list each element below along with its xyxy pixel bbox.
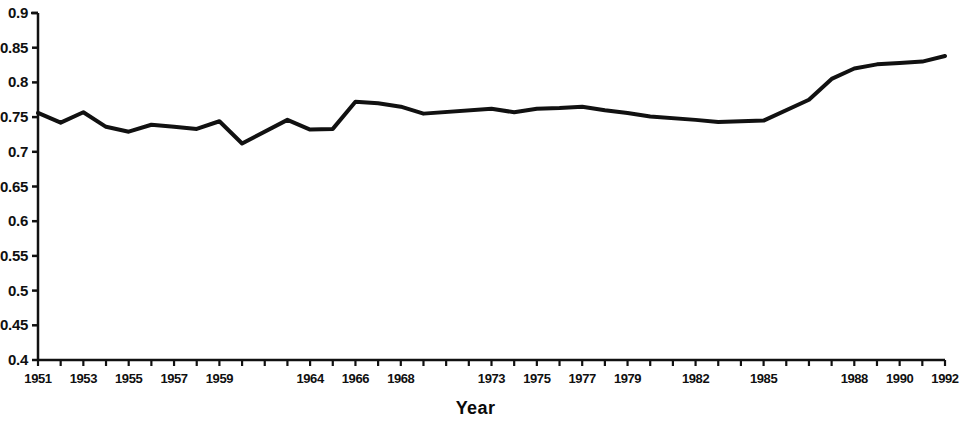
x-axis-tick-label: 1985 [734, 372, 794, 385]
data-series-line [38, 56, 945, 143]
y-axis-tick-label: 0.65 [0, 179, 28, 194]
x-axis-ticks [38, 360, 945, 366]
x-axis-tick-label: 1992 [915, 372, 964, 385]
y-axis-tick-label: 0.5 [0, 283, 28, 298]
x-axis-tick-label: 1982 [666, 372, 726, 385]
x-axis-title: Year [0, 398, 951, 419]
y-axis-tick-label: 0.7 [0, 144, 28, 159]
x-axis-tick-label: 1979 [598, 372, 658, 385]
y-axis-tick-label: 0.9 [0, 5, 28, 20]
y-axis-tick-label: 0.85 [0, 40, 28, 55]
x-axis-tick-label: 1959 [189, 372, 249, 385]
y-axis-tick-label: 0.8 [0, 74, 28, 89]
y-axis-tick-label: 0.6 [0, 213, 28, 228]
y-axis-tick-label: 0.55 [0, 248, 28, 263]
axis-lines [31, 13, 945, 360]
y-axis-tick-label: 0.45 [0, 317, 28, 332]
y-axis-tick-label: 0.4 [0, 352, 28, 367]
y-axis-tick-label: 0.75 [0, 109, 28, 124]
x-axis-tick-label: 1968 [371, 372, 431, 385]
